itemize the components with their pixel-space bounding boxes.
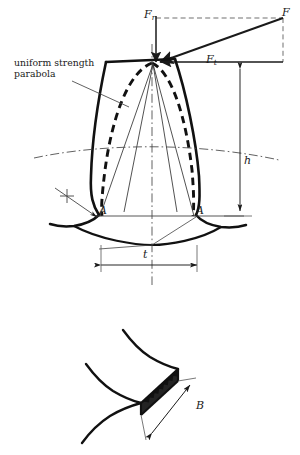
- uniform-strength-parabola: [102, 63, 194, 216]
- tooth-root-fillets: [50, 215, 246, 227]
- tooth-outline: [91, 59, 200, 215]
- tooth-root-land: [74, 226, 221, 245]
- dimension-t-extensions: [101, 245, 197, 272]
- parabola-tangent-lines: [100, 64, 194, 216]
- force-resultant-vector: [160, 18, 283, 62]
- pitch-line: [34, 147, 279, 160]
- gear-tooth-bending-diagram: [0, 0, 300, 455]
